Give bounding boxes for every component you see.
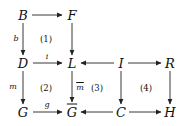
node-R: R <box>165 57 175 70</box>
label-m-bar: m <box>76 84 84 92</box>
node-I: I <box>118 57 123 70</box>
node-B: B <box>18 9 28 22</box>
node-H: H <box>164 106 175 119</box>
region-2: (2) <box>40 84 52 93</box>
label-b: b <box>13 35 18 43</box>
node-L: L <box>68 57 77 70</box>
region-1: (1) <box>40 35 52 44</box>
node-C: C <box>116 106 126 119</box>
node-G-bar: G <box>67 106 77 119</box>
node-F: F <box>67 9 76 22</box>
label-i: i <box>46 53 49 61</box>
node-G: G <box>18 106 28 119</box>
region-3: (3) <box>91 84 103 93</box>
label-g: g <box>44 101 49 109</box>
label-m: m <box>9 83 17 91</box>
node-D: D <box>18 57 28 70</box>
region-4: (4) <box>140 84 152 93</box>
commutative-diagram: B F D L I R G G C H b i m m g (1) (2) (3… <box>0 0 187 126</box>
